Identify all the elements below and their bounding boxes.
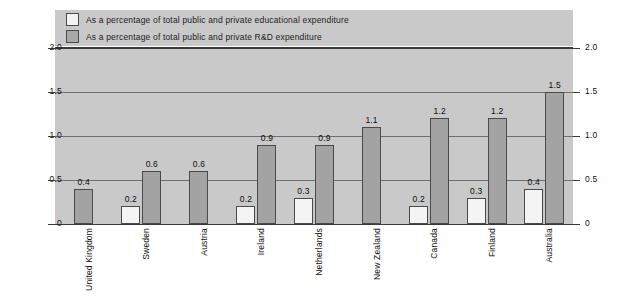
bar-wrapper: 0.2 [409, 48, 428, 224]
bar-value-label: 1.5 [549, 80, 561, 90]
y-tick-label-left: 0.5 [22, 174, 62, 184]
y-tick-mark-left [48, 180, 55, 181]
legend-label-educational: As a percentage of total public and priv… [86, 15, 349, 25]
bar-value-label: 0.2 [125, 194, 137, 204]
bar-groups: 0.40.20.60.60.20.90.30.91.10.21.20.31.20… [55, 48, 573, 224]
bar-value-label: 0.4 [78, 177, 90, 187]
y-tick-mark-right [573, 136, 580, 137]
y-tick-mark-left [48, 92, 55, 93]
bar-wrapper: 0.4 [74, 48, 93, 224]
bar-wrapper: 1.2 [430, 48, 449, 224]
bar-rnd[interactable] [362, 127, 381, 224]
bar-group: 0.41.5 [516, 48, 574, 224]
bar-wrapper: 0.6 [142, 48, 161, 224]
bar-wrapper: 0.4 [524, 48, 543, 224]
y-tick-label-left: 1.0 [22, 130, 62, 140]
legend-swatch-educational-icon [66, 13, 79, 26]
bar-rnd[interactable] [315, 145, 334, 224]
x-label-cell: United Kingdom [55, 226, 113, 302]
bar-rnd[interactable] [74, 189, 93, 224]
x-label-cell: Finland [458, 226, 516, 302]
bar-wrapper: 0.2 [236, 48, 255, 224]
y-tick-mark-right [573, 180, 580, 181]
bar-educational[interactable] [409, 206, 428, 224]
bar-group: 0.20.6 [113, 48, 171, 224]
bar-wrapper: 0.6 [189, 48, 208, 224]
bar-wrapper: 1.1 [362, 48, 381, 224]
x-label-cell: Sweden [113, 226, 171, 302]
bar-group: 0.6 [170, 48, 228, 224]
x-label-cell: New Zealand [343, 226, 401, 302]
x-label-cell: Austria [170, 226, 228, 302]
y-tick-label-left: 1.5 [22, 86, 62, 96]
bar-rnd[interactable] [488, 118, 507, 224]
bar-educational[interactable] [294, 198, 313, 224]
axis-baseline [55, 224, 573, 225]
bar-group: 1.1 [343, 48, 401, 224]
bar-value-label: 0.6 [146, 159, 158, 169]
legend-label-rnd: As a percentage of total public and priv… [86, 32, 322, 42]
bar-value-label: 0.2 [412, 194, 424, 204]
x-tick-label: Australia [544, 228, 554, 263]
bar-group: 0.31.2 [458, 48, 516, 224]
y-tick-mark-right [573, 92, 580, 93]
x-tick-label: Austria [199, 228, 209, 256]
x-tick-label: Finland [487, 228, 497, 257]
bar-value-label: 1.2 [433, 106, 445, 116]
bar-wrapper: 0.9 [315, 48, 334, 224]
bar-value-label: 0.6 [193, 159, 205, 169]
bar-value-label: 0.2 [240, 194, 252, 204]
bar-group: 0.21.2 [400, 48, 458, 224]
x-tick-label: Sweden [141, 228, 151, 260]
legend-item-educational: As a percentage of total public and priv… [66, 12, 566, 27]
x-tick-label: Canada [429, 228, 439, 259]
bar-chart: As a percentage of total public and priv… [0, 0, 627, 302]
bar-value-label: 0.4 [528, 177, 540, 187]
y-tick-label-right: 0.5 [585, 174, 625, 184]
bar-educational[interactable] [524, 189, 543, 224]
y-tick-mark-right [573, 48, 580, 49]
y-tick-label-left: 0 [22, 218, 62, 228]
bar-wrapper: 1.5 [545, 48, 564, 224]
y-tick-mark-left [48, 136, 55, 137]
y-tick-label-right: 1.0 [585, 130, 625, 140]
x-tick-label: New Zealand [372, 228, 382, 280]
bar-rnd[interactable] [430, 118, 449, 224]
y-tick-label-right: 2.0 [585, 42, 625, 52]
y-tick-label-right: 0 [585, 218, 625, 228]
x-tick-label: United Kingdom [84, 228, 94, 291]
bar-educational[interactable] [467, 198, 486, 224]
y-tick-mark-left [48, 48, 55, 49]
y-tick-label-right: 1.5 [585, 86, 625, 96]
x-label-cell: Canada [400, 226, 458, 302]
y-tick-mark-right [573, 224, 580, 225]
bar-educational[interactable] [121, 206, 140, 224]
y-tick-mark-left [48, 224, 55, 225]
bar-value-label: 0.9 [318, 133, 330, 143]
bar-value-label: 0.3 [470, 186, 482, 196]
bar-wrapper: 0.3 [294, 48, 313, 224]
chart-legend: As a percentage of total public and priv… [66, 12, 566, 44]
bar-wrapper: 1.2 [488, 48, 507, 224]
bar-wrapper: 0.9 [257, 48, 276, 224]
x-label-cell: Australia [516, 226, 574, 302]
bar-rnd[interactable] [257, 145, 276, 224]
x-label-cell: Ireland [228, 226, 286, 302]
bar-group: 0.20.9 [228, 48, 286, 224]
bar-group: 0.30.9 [285, 48, 343, 224]
legend-item-rnd: As a percentage of total public and priv… [66, 29, 566, 44]
x-axis-labels: United KingdomSwedenAustriaIrelandNether… [55, 226, 573, 302]
bar-rnd[interactable] [545, 92, 564, 224]
legend-swatch-rnd-icon [66, 30, 79, 43]
bar-rnd[interactable] [142, 171, 161, 224]
bar-rnd[interactable] [189, 171, 208, 224]
bar-educational[interactable] [236, 206, 255, 224]
bar-value-label: 1.2 [491, 106, 503, 116]
x-tick-label: Ireland [256, 228, 266, 255]
y-tick-label-left: 2.0 [22, 42, 62, 52]
bar-wrapper: 0.3 [467, 48, 486, 224]
bar-value-label: 1.1 [365, 115, 377, 125]
bar-group: 0.4 [55, 48, 113, 224]
x-tick-label: Netherlands [314, 228, 324, 276]
bar-value-label: 0.3 [297, 186, 309, 196]
